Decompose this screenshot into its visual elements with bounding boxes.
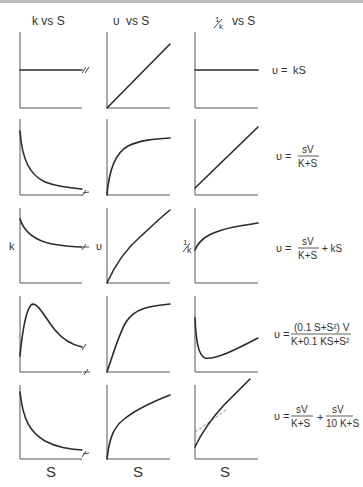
xlabel-col2: S (133, 463, 143, 480)
svg-text:10 K+S: 10 K+S (326, 418, 359, 429)
plot-r3-invk: 1 k (183, 208, 258, 283)
equation-r4: υ = (0.1 S+S²) V K+0.1 KS+S² (274, 322, 351, 347)
svg-text:+ kS: + kS (322, 243, 343, 254)
ylabel-k: k (9, 240, 15, 252)
svg-text:K+S: K+S (298, 250, 318, 261)
plot-r1-v (107, 32, 170, 108)
svg-text:k: k (219, 22, 224, 31)
svg-text:sV: sV (332, 404, 344, 415)
svg-text:vs S: vs S (232, 14, 255, 28)
row-1: υ = kS (20, 32, 306, 108)
svg-text:+: + (317, 411, 323, 423)
svg-text:υ =: υ = (274, 410, 290, 422)
equation-r3: υ = sV K+S + kS (276, 236, 343, 261)
ylabel-v: υ (96, 240, 102, 252)
header-v-vs-s: υ vs S (113, 14, 149, 28)
xlabel-col1: S (46, 463, 56, 480)
svg-text:K+S: K+S (298, 158, 318, 169)
plot-r3-v: υ (96, 208, 170, 283)
plot-r4-v (107, 296, 170, 372)
equation-r1: υ = kS (272, 64, 306, 76)
plot-r4-k (20, 296, 90, 375)
ylabel-inv-k: 1 k (183, 238, 192, 255)
diagram-canvas: k vs S υ vs S 1 k vs S υ = kS (0, 0, 363, 487)
plot-r1-k (20, 32, 89, 108)
plot-r2-invk (195, 119, 258, 195)
svg-text:sV: sV (296, 404, 308, 415)
row-5: υ = sV K+S + sV 10 K+S (20, 379, 359, 459)
plot-r2-k (20, 119, 89, 196)
plot-r2-v (107, 119, 170, 195)
equation-r2: υ = sV K+S (276, 144, 319, 169)
svg-text:υ: υ (113, 14, 120, 28)
svg-text:kS: kS (293, 64, 306, 76)
svg-text:sV: sV (302, 144, 314, 155)
row-3: k υ 1 k υ = sV K+S + kS (9, 208, 343, 283)
plot-r1-invk (195, 32, 258, 108)
xlabel-col3: S (220, 463, 230, 480)
svg-text:υ =: υ = (272, 64, 288, 76)
svg-text:K+S: K+S (291, 418, 311, 429)
svg-text:υ =: υ = (274, 328, 290, 340)
svg-text:k: k (187, 245, 192, 255)
plot-r3-k: k (9, 208, 89, 283)
svg-text:υ =: υ = (276, 150, 292, 162)
header-k-vs-s: k vs S (32, 14, 65, 28)
plot-r4-invk (195, 296, 258, 372)
plot-r5-k (20, 385, 89, 459)
equation-r5: υ = sV K+S + sV 10 K+S (274, 404, 359, 429)
svg-text:(0.1 S+S²) V: (0.1 S+S²) V (294, 322, 350, 333)
plot-r5-v (107, 385, 170, 459)
svg-text:sV: sV (302, 236, 314, 247)
svg-text:υ =: υ = (276, 242, 292, 254)
header-inv-k-vs-s: 1 k vs S (214, 14, 255, 31)
row-2: υ = sV K+S (20, 119, 319, 196)
plot-r5-invk (195, 379, 258, 459)
svg-text:K+0.1 KS+S²: K+0.1 KS+S² (291, 336, 350, 347)
svg-text:vs S: vs S (126, 14, 149, 28)
row-4: υ = (0.1 S+S²) V K+0.1 KS+S² (20, 296, 351, 375)
